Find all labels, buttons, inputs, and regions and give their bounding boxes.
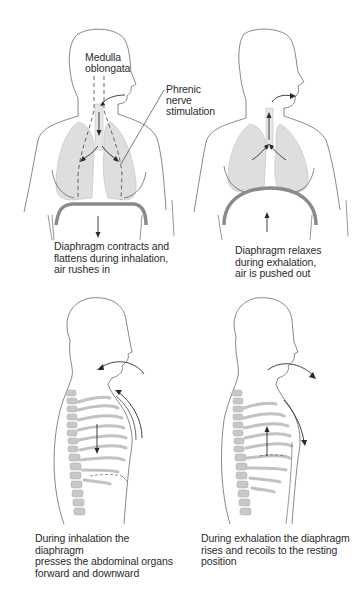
caption-side-exhalation: During exhalation the diaphragm rises an…: [201, 533, 350, 568]
front-torso-inhalation-illustration: [0, 0, 180, 240]
caption-line: forward and downward: [35, 568, 180, 580]
ribcage: [244, 403, 292, 492]
panel-side-exhalation: During exhalation the diaphragm rises an…: [180, 280, 360, 591]
ribcage: [78, 397, 126, 484]
caption-line: air rushes in: [54, 264, 169, 276]
diaphragm: [224, 188, 316, 225]
caption-line: During exhalation the diaphragm: [201, 533, 350, 545]
diaphragm: [56, 204, 146, 225]
label-line: oblongata: [85, 63, 130, 74]
left-lung: [56, 122, 94, 200]
caption-line: During inhalation the diaphragm: [35, 533, 180, 556]
caption-line: Diaphragm contracts and: [54, 241, 169, 253]
right-lung: [275, 124, 308, 192]
spine: [232, 390, 251, 515]
caption-front-inhalation: Diaphragm contracts and flattens during …: [54, 241, 169, 276]
panel-front-exhalation: Diaphragm relaxes during exhalation, air…: [180, 0, 360, 290]
caption-line: Diaphragm relaxes: [235, 245, 321, 257]
panel-front-inhalation: Medulla oblongata Phrenic nerve stimulat…: [0, 0, 180, 290]
label-medulla-oblongata: Medulla oblongata: [85, 52, 130, 74]
side-torso-inhalation-illustration: [0, 280, 180, 540]
front-torso-exhalation-illustration: [180, 0, 360, 240]
caption-line: presses the abdominal organs: [35, 556, 180, 568]
caption-line: position: [201, 556, 350, 568]
panel-side-inhalation: During inhalation the diaphragm presses …: [0, 280, 180, 591]
left-lung: [228, 124, 266, 192]
caption-front-exhalation: Diaphragm relaxes during exhalation, air…: [235, 245, 321, 280]
caption-line: air is pushed out: [235, 268, 321, 280]
caption-side-inhalation: During inhalation the diaphragm presses …: [35, 533, 180, 579]
side-torso-exhalation-illustration: [180, 280, 360, 540]
